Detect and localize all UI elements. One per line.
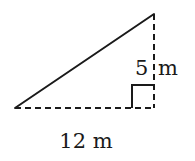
base-label: 12 m xyxy=(59,129,112,153)
hypotenuse-line xyxy=(15,14,154,108)
height-value-label: 5 xyxy=(135,56,148,80)
height-unit-label: m xyxy=(158,56,178,80)
right-angle-marker xyxy=(132,85,154,108)
right-triangle-diagram: 5 m 12 m xyxy=(0,0,195,161)
